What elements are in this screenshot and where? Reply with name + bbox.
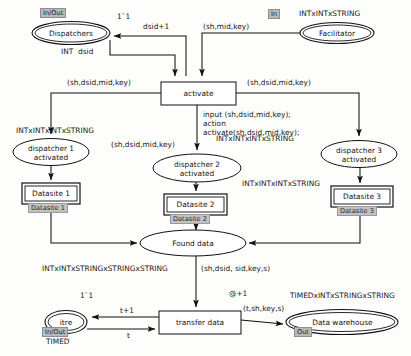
place-label-founddata: Found data [153, 239, 233, 248]
arc-label-right-tuple: (sh,dsid,mid,key) [247, 78, 311, 87]
place-label-dispatcher1: dispatcher 1 activated [13, 144, 89, 162]
itre-marking: 1`1 [80, 291, 93, 300]
dispatchers-marking: 1`1 [117, 12, 130, 21]
arc-label-sh-mid-key: (sh,mid,key) [203, 22, 249, 31]
arc-label-dsid-plus-1: dsid+1 [143, 22, 169, 31]
place-label-itre: itre [46, 318, 86, 327]
dispatcher3-colorset: INTxINTxINTxSTRING [242, 179, 320, 188]
place-label-dispatcher2: dispatcher 2 activated [159, 160, 235, 178]
arc-label-t: t [127, 331, 130, 340]
transition-transfer-delay: @+1 [229, 289, 247, 298]
subtransition-subpage-datasite2: Datasite 2 [170, 214, 210, 224]
subtransition-subpage-datasite1: Datasite 1 [28, 203, 68, 213]
arc-label-t-plus-1: t+1 [120, 306, 134, 315]
place-label-warehouse: Data warehouse [300, 318, 385, 327]
place-label-dispatcher3: dispatcher 3 activated [321, 146, 397, 164]
transition-label-transfer: transfer data [159, 318, 241, 327]
warehouse-colorset: TIMEDxINTxSTRINGxSTRING [290, 291, 395, 300]
arc-facilitator-to-activate [202, 33, 300, 76]
arc-transfer-to-warehouse [241, 320, 283, 324]
dispatchers-colorset: INT dsid [61, 47, 93, 56]
dispatchers-port-tag: In/Out [40, 8, 66, 18]
facilitator-colorset: INTxINTxSTRING [299, 9, 360, 18]
subtransition-label-datasite3: Datasite 3 [331, 192, 393, 201]
arc-label-left-tuple: (sh,dsid,mid,key) [67, 78, 131, 87]
arc-label-mid-tuple: (sh,dsid,mid,key) [111, 140, 175, 149]
arc-label-warehouse-tuple: (t,sh,key,s) [243, 304, 284, 313]
place-label-dispatchers: Dispatchers [31, 29, 111, 38]
dispatcher1-colorset: INTxINTxINTxSTRING [16, 126, 94, 135]
subtransition-label-datasite1: Datasite 1 [22, 189, 80, 198]
itre-colorset: TIMED [46, 337, 70, 346]
arc-label-found-tuple: (sh,dsid, sid,key,s) [201, 264, 270, 273]
itre-port-tag: In/Out [42, 327, 68, 337]
subtransition-label-datasite2: Datasite 2 [164, 200, 227, 209]
facilitator-port-tag: In [268, 9, 280, 19]
arc-datasite1-to-founddata [51, 211, 137, 243]
warehouse-port-tag: Out [294, 327, 312, 337]
subtransition-subpage-datasite3: Datasite 3 [337, 206, 377, 216]
place-label-facilitator: Facilitator [302, 29, 372, 38]
transition-label-activate: activate [161, 89, 236, 98]
arc-dispatchers-to-activate [110, 40, 175, 76]
arc-datasite3-to-founddata [249, 214, 360, 243]
cpn-diagram-canvas: In/Out Dispatchers 1`1 INT dsid In Facil… [0, 0, 411, 356]
founddata-colorset: INTxINTxSTRINGxSTRINGxSTRING [42, 264, 168, 273]
dispatcher2-colorset: INTxINTxINTxSTRING [216, 134, 294, 143]
